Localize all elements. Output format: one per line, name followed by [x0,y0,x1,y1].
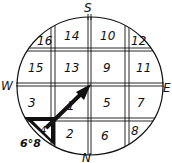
cell-1: 1 [67,100,75,112]
direction-west-label: W [1,80,13,92]
cell-4: 4 [40,125,46,137]
compass-diagram: S N W E 16 14 10 12 15 13 9 11 3 1 5 7 4… [0,0,172,163]
cell-8: 8 [131,125,139,137]
cell-10: 10 [100,30,115,42]
cell-16: 16 [37,35,52,47]
cell-7: 7 [137,97,145,109]
cell-9: 9 [103,62,111,74]
direction-south-label: S [84,2,92,14]
cell-12: 12 [131,35,146,47]
cell-13: 13 [64,62,79,74]
cell-14: 14 [64,30,79,42]
direction-north-label: N [82,152,91,163]
cell-6: 6 [101,130,109,142]
cell-15: 15 [28,62,43,74]
cell-3: 3 [28,97,36,109]
cell-11: 11 [136,62,151,74]
direction-east-label: E [163,82,171,94]
cell-5: 5 [103,97,111,109]
cell-2: 2 [66,128,74,140]
angle-annotation: 6°8 [20,138,41,150]
